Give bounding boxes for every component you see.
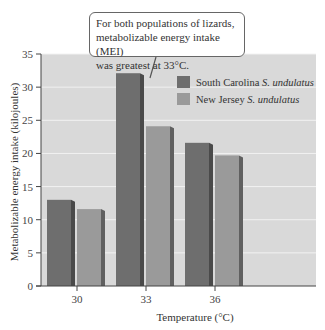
x-axis-title: Temperature (°C) [156,311,234,324]
bar-side [239,155,243,286]
bar [215,155,239,286]
y-axis: 05101520253035 [22,48,41,292]
y-tick-label: 25 [22,114,34,126]
legend-label: New Jersey S. undulatus [196,94,299,105]
y-tick-label: 20 [22,147,34,159]
y-axis-title: Metabolizable energy intake (kilojoules) [8,82,21,261]
callout-line-2: metabolizable energy intake (MEI) [96,30,238,58]
bar [116,73,140,286]
y-tick-label: 0 [28,280,34,292]
bar-side [101,209,105,286]
bar-side [140,73,144,286]
x-tick-label: 30 [72,293,84,305]
bar [185,143,209,286]
callout-line-1: For both populations of lizards, [96,16,238,30]
bar-side [170,126,174,286]
callout-line-3: was greatest at 33°C. [96,58,238,72]
bar-side [209,143,213,286]
bar-side [71,200,75,286]
callout-annotation: For both populations of lizards, metabol… [89,12,245,57]
y-tick-label: 35 [22,48,34,60]
y-tick-label: 15 [22,181,34,193]
bar [77,209,101,286]
bar [146,126,170,286]
legend-label: South Carolina S. undulatus [196,77,314,88]
x-axis: 303336 [36,286,316,305]
y-tick-label: 30 [22,81,34,93]
legend-swatch [177,76,190,88]
x-tick-label: 33 [141,293,153,305]
y-tick-label: 10 [22,214,34,226]
x-tick-label: 36 [210,293,222,305]
y-tick-label: 5 [28,247,34,259]
legend-swatch [177,93,190,105]
bar [47,200,71,286]
